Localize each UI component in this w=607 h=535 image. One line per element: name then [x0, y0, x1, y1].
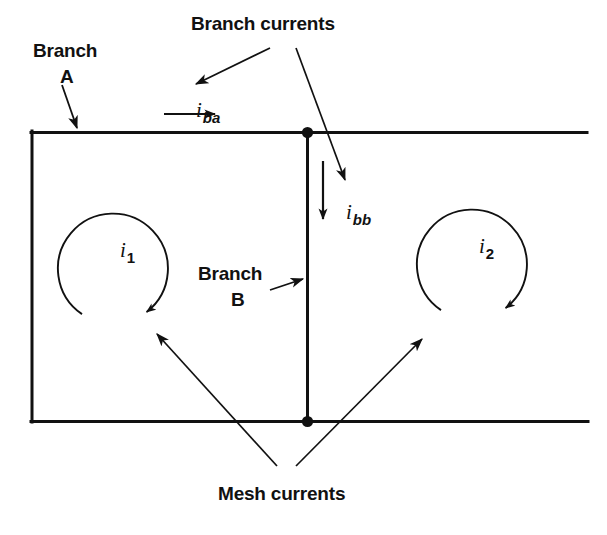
branch-a-label-line1: Branch	[33, 40, 97, 62]
mesh-currents-leader-right	[296, 339, 422, 466]
current-i-2-label: i2	[463, 216, 493, 277]
branch-currents-leader-left	[196, 48, 270, 84]
branch-a-label-line2: A	[60, 66, 74, 88]
node-top	[302, 127, 313, 138]
current-i-bb-subscript: bb	[353, 211, 371, 228]
branch-a-leader	[62, 85, 77, 128]
current-i-bb-symbol: i	[346, 200, 352, 224]
current-i-2-symbol: i	[479, 234, 485, 258]
current-i-1-label: i1	[104, 220, 134, 281]
diagram-canvas	[0, 0, 607, 535]
branch-currents-leader-right	[296, 48, 345, 180]
current-i-2-subscript: 2	[486, 245, 494, 262]
branch-b-label-line1: Branch	[198, 263, 262, 285]
current-i-ba-symbol: i	[196, 98, 202, 122]
current-i-bb-label: ibb	[330, 182, 370, 243]
branch-currents-label: Branch currents	[191, 13, 335, 35]
current-i-ba-subscript: ba	[203, 109, 221, 126]
node-bottom	[302, 416, 313, 427]
branch-b-label-line2: B	[231, 289, 245, 311]
current-i-1-subscript: 1	[127, 249, 135, 266]
mesh-currents-leaders	[157, 334, 422, 466]
branch-b-leader	[270, 279, 303, 290]
mesh-currents-label: Mesh currents	[218, 483, 345, 505]
current-i-1-symbol: i	[120, 238, 126, 262]
mesh-currents-leader-left	[157, 334, 277, 466]
current-i-ba-label: iba	[180, 80, 219, 141]
circuit-diagram-figure: Branch currents Branch A Branch B Mesh c…	[0, 0, 607, 535]
